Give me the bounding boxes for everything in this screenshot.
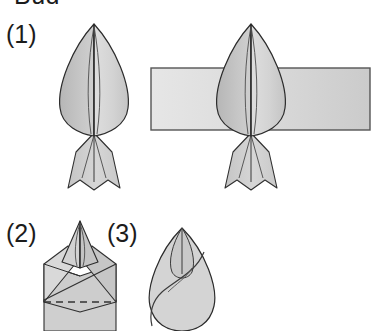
panel-label-1: (1)	[6, 22, 37, 47]
bud-shape-left	[60, 24, 129, 190]
bud-shape-over-band	[217, 24, 286, 190]
panel-2-faceted-folded-bud	[44, 221, 116, 331]
panel-label-3: (3)	[107, 221, 138, 246]
figure-root: Bud	[0, 0, 381, 331]
panel-label-2: (2)	[6, 221, 37, 246]
panel-3-spiral-closed-bud	[149, 228, 215, 331]
facet-top-cone-left	[62, 221, 80, 268]
figure-artwork	[0, 0, 381, 331]
facet-top-cone-right	[80, 221, 98, 268]
diagram-svg	[0, 0, 381, 331]
